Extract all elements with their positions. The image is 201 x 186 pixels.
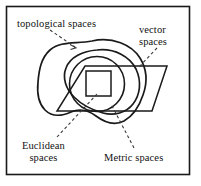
label-topological-spaces: topological spaces [17, 18, 96, 30]
label-euclidean-spaces-line1: Euclidean [22, 140, 65, 152]
label-vector-spaces-line1: vector [139, 24, 167, 36]
label-vector-spaces: vector spaces [139, 24, 167, 47]
spaces-venn-diagram: topological spaces vector spaces Euclide… [0, 0, 201, 186]
label-euclidean-spaces: Euclidean spaces [22, 140, 65, 163]
label-vector-spaces-line2: spaces [139, 36, 167, 48]
label-metric-spaces: Metric spaces [104, 152, 163, 164]
label-euclidean-spaces-line2: spaces [22, 152, 65, 164]
